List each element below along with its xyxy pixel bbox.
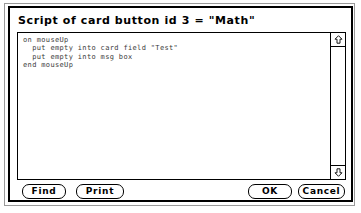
arrow-up-icon <box>334 35 343 44</box>
dialog-button-row: Find Print OK Cancel <box>10 184 351 202</box>
print-button[interactable]: Print <box>76 184 124 199</box>
dialog-title-bar: Script of card button id 3 = "Math" <box>18 13 255 29</box>
scroll-down-button[interactable] <box>331 165 345 179</box>
arrow-down-icon <box>334 168 343 177</box>
vertical-scrollbar[interactable] <box>330 33 345 179</box>
ok-button[interactable]: OK <box>248 184 292 199</box>
page-title: Script of card button id 3 = "Math" <box>18 13 255 29</box>
scrollbar-track[interactable] <box>331 48 345 164</box>
script-text-area[interactable]: on mouseUp put empty into card field "Te… <box>17 32 346 180</box>
cancel-button[interactable]: Cancel <box>298 184 345 199</box>
scroll-up-button[interactable] <box>331 33 345 47</box>
script-editor-dialog: Script of card button id 3 = "Math" on m… <box>8 6 353 202</box>
find-button[interactable]: Find <box>22 184 66 199</box>
script-input[interactable]: on mouseUp put empty into card field "Te… <box>23 36 327 70</box>
